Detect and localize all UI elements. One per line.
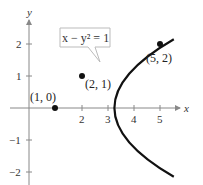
y-tick-label: −1 <box>9 134 21 146</box>
y-axis-label: y <box>26 6 32 18</box>
point-label-2-1: (2, 1) <box>85 77 111 91</box>
y-tick-label: 1 <box>16 70 22 82</box>
chart: x y 2 3 4 5 2 1 −1 −2 (1, 0) (2, 1) (5, … <box>0 0 203 185</box>
x-tick-label: 4 <box>131 113 137 125</box>
point-1-0 <box>52 105 58 111</box>
point-label-5-2: (5, 2) <box>146 51 172 65</box>
point-5-2 <box>157 41 163 47</box>
x-axis-label: x <box>183 102 189 114</box>
x-tick-label: 3 <box>105 113 111 125</box>
x-tick-label: 5 <box>157 113 163 125</box>
y-tick-label: −2 <box>9 166 21 178</box>
x-tick-label: 2 <box>79 113 85 125</box>
equation-callout: x − y² = 1 <box>60 28 110 62</box>
y-tick-label: 2 <box>16 38 22 50</box>
equation-label: x − y² = 1 <box>62 31 109 45</box>
point-label-1-0: (1, 0) <box>30 90 56 104</box>
